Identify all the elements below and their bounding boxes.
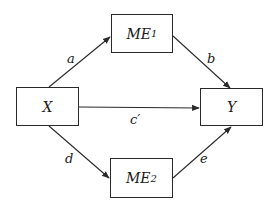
arrow-c-prime: [79, 107, 199, 108]
edge-label-b: b: [207, 52, 215, 65]
node-x-label: X: [43, 99, 53, 115]
edge-label-e: e: [200, 152, 208, 165]
node-x: X: [16, 87, 79, 126]
node-me1: ME1: [111, 14, 173, 53]
arrow-b: [173, 36, 230, 88]
edge-label-a: a: [67, 52, 75, 65]
edge-label-c-prime: c′: [130, 113, 140, 126]
arrow-d: [49, 126, 109, 178]
arrow-a: [49, 37, 110, 87]
node-me2-label: ME: [126, 170, 151, 186]
node-me2: ME2: [110, 158, 173, 198]
edge-label-d: d: [65, 152, 73, 165]
mediation-diagram: X Y ME1 ME2 a b c′ d e: [0, 0, 278, 210]
node-y: Y: [200, 88, 263, 126]
node-me1-subscript: 1: [151, 28, 157, 39]
node-me1-label: ME: [127, 26, 152, 42]
node-y-label: Y: [227, 99, 236, 115]
node-me2-subscript: 2: [151, 173, 157, 184]
